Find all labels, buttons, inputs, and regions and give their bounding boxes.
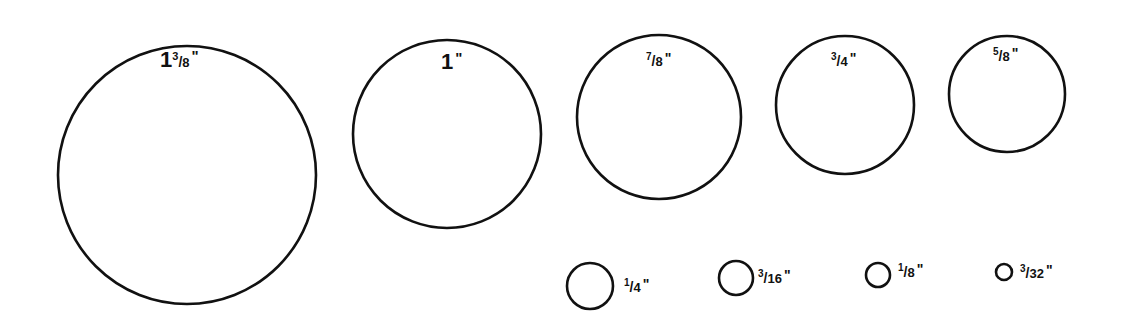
label-1-3-8-inch: 13/8" xyxy=(160,48,199,71)
label-1-4-inch: 1/4" xyxy=(624,277,649,295)
label-inch-mark: " xyxy=(784,267,791,283)
circle-1-3-8-inch xyxy=(58,46,316,304)
label-denominator: 8 xyxy=(907,265,914,280)
label-7-8-inch: 7/8" xyxy=(646,51,671,69)
label-denominator: 4 xyxy=(840,54,847,69)
circle-3-16-inch xyxy=(719,261,753,295)
circle-1-8-inch xyxy=(866,263,890,287)
label-inch-mark: " xyxy=(455,49,462,66)
label-inch-mark: " xyxy=(1012,45,1019,61)
label-denominator: 4 xyxy=(633,280,640,295)
label-inch-mark: " xyxy=(192,47,199,64)
label-denominator: 16 xyxy=(767,271,781,286)
circle-1-4-inch xyxy=(567,263,613,309)
label-inch-mark: " xyxy=(850,50,857,66)
label-whole: 1 xyxy=(441,49,453,74)
label-inch-mark: " xyxy=(665,50,672,66)
label-3-4-inch: 3/4" xyxy=(831,51,856,69)
label-inch-mark: " xyxy=(643,276,650,292)
label-denominator: 8 xyxy=(655,54,662,69)
label-1-inch: 1" xyxy=(441,50,462,73)
label-3-32-inch: 3/32" xyxy=(1020,263,1053,281)
label-denominator: 8 xyxy=(1002,49,1009,64)
label-5-8-inch: 5/8" xyxy=(993,46,1018,64)
label-denominator: 8 xyxy=(182,55,189,70)
label-3-16-inch: 3/16" xyxy=(758,268,791,286)
circle-3-32-inch xyxy=(996,264,1012,280)
label-whole: 1 xyxy=(160,47,172,72)
label-inch-mark: " xyxy=(1046,262,1053,278)
label-denominator: 32 xyxy=(1029,266,1043,281)
label-1-8-inch: 1/8" xyxy=(898,262,923,280)
label-inch-mark: " xyxy=(917,261,924,277)
